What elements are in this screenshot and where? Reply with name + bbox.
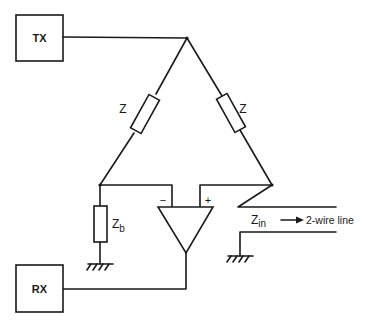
z-left-impedance: Z: [100, 38, 187, 185]
difference-amplifier: − +: [158, 194, 213, 253]
minus-sign: −: [160, 194, 166, 206]
z-b-label: Zb: [112, 217, 125, 234]
rx-block: RX: [16, 265, 63, 312]
tx-label: TX: [32, 32, 47, 44]
tx-wire: [63, 37, 187, 38]
z-b-impedance: Zb: [94, 185, 125, 264]
rx-label: RX: [32, 283, 48, 295]
rx-wire: [63, 253, 186, 289]
z-right-impedance: Z: [187, 38, 272, 185]
z-left-label: Z: [119, 102, 126, 116]
ground-icon: [87, 264, 113, 270]
line-bottom-conductor: [240, 232, 336, 256]
ground-icon: [227, 256, 253, 262]
plus-sign: +: [205, 194, 211, 206]
line-top-conductor: [238, 185, 336, 207]
z-in-label: Zin: [251, 213, 266, 229]
hybrid-circuit-diagram: TX Z Z − + Zb: [0, 0, 369, 330]
z-right-label: Z: [239, 102, 246, 116]
tx-block: TX: [16, 15, 63, 61]
arrow-right-icon: [281, 217, 304, 224]
two-wire-line-label: 2-wire line: [306, 214, 354, 226]
